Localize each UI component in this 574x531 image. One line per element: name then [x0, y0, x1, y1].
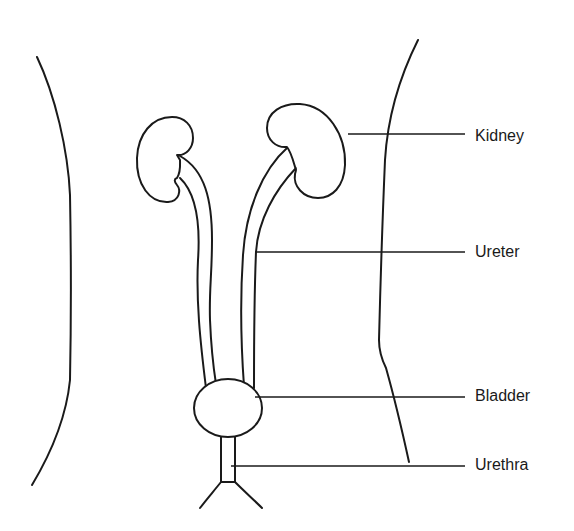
body-outline-left: [32, 57, 71, 485]
urinary-system-diagram: Kidney Ureter Bladder Urethra: [0, 0, 574, 531]
label-ureter: Ureter: [475, 244, 519, 260]
body-outline-right: [379, 40, 418, 462]
label-kidney: Kidney: [475, 128, 524, 144]
label-urethra: Urethra: [475, 457, 528, 473]
left-ureter: [180, 156, 216, 388]
urethra: [200, 437, 262, 508]
label-bladder: Bladder: [475, 388, 530, 404]
right-kidney: [267, 104, 345, 198]
bladder: [194, 379, 262, 437]
right-ureter: [241, 147, 296, 388]
